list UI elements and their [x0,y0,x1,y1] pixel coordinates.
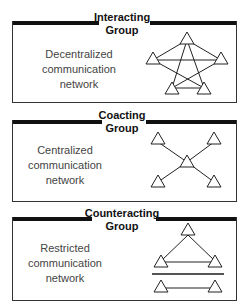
centralized-network-diagram [0,100,244,210]
node-triangle-icon [151,132,221,187]
node-triangle-icon [146,32,228,94]
restricted-network-diagram [0,200,244,307]
decentralized-network-diagram [0,0,244,110]
